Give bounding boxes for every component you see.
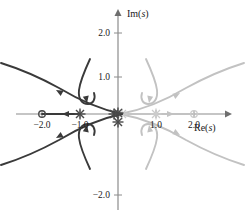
y-axis-label-suffix: ) [145, 8, 148, 20]
x-axis-label-suffix: ) [212, 122, 215, 134]
locus-dark-outer-lower [1, 114, 122, 165]
arrow-dark-real-segment [62, 111, 69, 117]
y-tick-label-1: 1.0 [98, 72, 110, 82]
pole-marker-light-1 [151, 109, 162, 120]
y-tick-label-2: 2.0 [98, 28, 110, 38]
x-axis-label: Re(s) [194, 122, 216, 134]
x-axis-label-prefix: Re( [194, 122, 209, 134]
x-tick-label--1: −1.0 [71, 120, 88, 130]
y-axis-label: Im(s) [127, 8, 149, 20]
x-tick-label-1: 1.0 [150, 120, 162, 130]
pole-marker-dark--1 [75, 109, 86, 120]
pole-marker-dark-lower [113, 117, 124, 128]
arrow-light-real-segment [167, 111, 174, 117]
root-locus-figure: −2.0 −1.0 1.0 2.0 2.0 1.0 −2.0 Re(s) Im(… [0, 0, 245, 220]
x-tick-label--2: −2.0 [33, 120, 50, 130]
y-tick-label--2: −2.0 [93, 190, 110, 200]
y-axis-label-prefix: Im( [127, 8, 142, 20]
locus-light-outer-upper [120, 63, 244, 114]
locus-light-outer-lower [120, 114, 244, 165]
locus-dark-outer-upper [1, 63, 122, 114]
root-locus-canvas: −2.0 −1.0 1.0 2.0 2.0 1.0 −2.0 Re(s) Im(… [0, 0, 245, 220]
